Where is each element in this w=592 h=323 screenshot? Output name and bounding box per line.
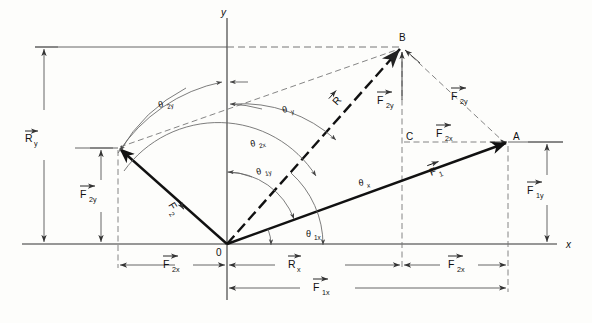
label-angle-theta-2x: θ 2x <box>249 136 267 151</box>
label-theta-x-glyph: θ <box>358 177 364 188</box>
label-F2y-left-base: F <box>80 188 86 200</box>
label-theta-2x-glyph: θ <box>249 138 256 149</box>
label-vector-R: R <box>329 90 346 107</box>
label-theta-1x-glyph: θ <box>306 229 311 239</box>
label-Ry-sub: y <box>34 139 38 148</box>
label-F2y-right-sub: 2y <box>460 97 468 106</box>
label-vector-F1: F 1 <box>427 162 444 182</box>
axis-label-y: y <box>220 7 227 18</box>
label-F1x-base: F <box>313 281 319 293</box>
label-angle-theta-1x: θ 1x <box>306 229 322 241</box>
label-F1y-sub: 1y <box>536 191 544 200</box>
label-vector-F2y-mid: F 2y <box>377 92 394 110</box>
vector-F1 <box>227 143 506 244</box>
label-theta-2x-sub: 2x <box>258 141 267 149</box>
label-angle-theta-x: θ x <box>358 176 372 190</box>
arc-theta-1y-back <box>228 172 252 177</box>
label-theta-1y-glyph: θ <box>255 166 262 177</box>
label-vector-F2y-right: F 2y <box>451 88 468 106</box>
point-label-B: B <box>399 32 406 43</box>
label-F2y-left-sub: 2y <box>89 195 97 204</box>
label-angle-theta-2y: θ 2y <box>157 96 175 112</box>
dimension-lines-group <box>35 47 563 288</box>
label-F2y-mid-sub: 2y <box>386 101 394 110</box>
diagram-canvas: y x 0 A B C R y F 2y F 1y F 2y F 2y F 2x <box>0 0 592 323</box>
label-theta-1x-sub: 1x <box>314 234 322 241</box>
arc-theta-2y-back <box>120 88 186 151</box>
vectors-group <box>120 49 506 244</box>
label-angle-theta-y: θ y <box>281 102 296 118</box>
point-label-C: C <box>406 131 413 142</box>
label-Rx-base: R <box>288 258 296 270</box>
construction-lines-group <box>35 47 563 292</box>
label-F2-sub: 2 <box>167 210 177 218</box>
label-theta-2y-sub: 2y <box>166 101 175 111</box>
label-F2y-right-base: F <box>451 90 457 102</box>
label-vector-F2x-bottom-right: F 2x <box>448 256 465 274</box>
parallelogram-side-ab-arrow <box>405 50 420 63</box>
point-label-O: 0 <box>216 247 222 258</box>
vector-F2 <box>120 149 227 244</box>
label-theta-y-sub: y <box>290 107 296 116</box>
arc-theta-1x <box>268 229 271 245</box>
label-vector-F2x-bottom-left: F 2x <box>163 256 180 274</box>
arc-theta-2x <box>124 123 316 176</box>
label-vector-F1y: F 1y <box>527 182 544 200</box>
label-F2x-mid-base: F <box>436 127 442 139</box>
label-F1-base: F <box>428 164 438 177</box>
label-theta-y-glyph: θ <box>281 104 288 115</box>
label-Ry-base: R <box>25 132 33 144</box>
label-F1x-sub: 1x <box>322 288 330 297</box>
label-vector-F2x-mid: F 2x <box>436 125 453 143</box>
label-vector-F1x: F 1x <box>313 279 330 297</box>
label-F2x-bl-base: F <box>163 258 169 270</box>
label-F2x-bl-sub: 2x <box>172 265 180 274</box>
point-label-A: A <box>513 131 520 142</box>
vector-diagram-figure: y x 0 A B C R y F 2y F 1y F 2y F 2y F 2x <box>0 0 592 323</box>
label-theta-2y-glyph: θ <box>157 99 164 110</box>
label-F2y-mid-base: F <box>377 94 383 106</box>
label-angle-theta-1y: θ 1y <box>255 163 273 179</box>
label-vector-Ry: R y <box>25 131 38 148</box>
label-F2x-br-sub: 2x <box>457 265 465 274</box>
label-F2x-br-base: F <box>448 258 454 270</box>
label-theta-x-sub: x <box>367 181 372 188</box>
label-theta-1y-sub: 1y <box>264 168 273 178</box>
label-vector-F2y-left: F 2y <box>80 186 97 204</box>
label-F2-base: F <box>166 200 180 212</box>
label-vector-Rx: R x <box>288 256 301 274</box>
label-F2x-mid-sub: 2x <box>445 134 453 143</box>
label-Rx-sub: x <box>297 265 301 274</box>
label-F1y-base: F <box>527 184 533 196</box>
label-F1-sub: 1 <box>437 169 444 179</box>
axis-label-x: x <box>565 239 572 250</box>
